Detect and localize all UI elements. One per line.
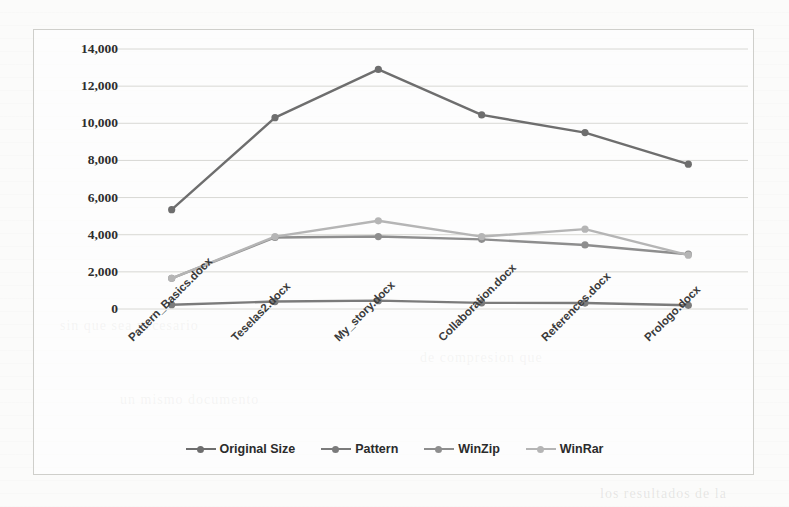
x-axis-tick-label: My_story.docx [332,279,397,344]
chart-legend: Original SizePatternWinZipWinRar [34,442,755,456]
x-axis-tick-label: Teselas2.docx [229,280,292,343]
x-axis-tick-label: Collaboration.docx [436,261,518,343]
legend-label: WinZip [458,442,500,456]
legend-marker-icon [186,444,216,454]
legend-marker-icon [424,444,454,454]
x-axis-tick-label: Prologo.docx [642,283,702,343]
x-axis-labels: Pattern_Basics.docxTeselas2.docxMy_story… [34,30,755,476]
legend-item-winzip[interactable]: WinZip [424,442,500,456]
legend-item-original-size[interactable]: Original Size [186,442,296,456]
x-axis-tick-label: References.docx [539,270,613,344]
legend-marker-icon [321,444,351,454]
legend-item-winrar[interactable]: WinRar [526,442,604,456]
chart-container: 02,0004,0006,0008,00010,00012,00014,000 … [33,29,754,475]
legend-label: WinRar [560,442,604,456]
legend-item-pattern[interactable]: Pattern [321,442,398,456]
legend-label: Original Size [220,442,296,456]
legend-label: Pattern [355,442,398,456]
background-ghost-text-4: los resultados de la [600,486,727,502]
legend-marker-icon [526,444,556,454]
x-axis-tick-label: Pattern_Basics.docx [126,255,214,343]
